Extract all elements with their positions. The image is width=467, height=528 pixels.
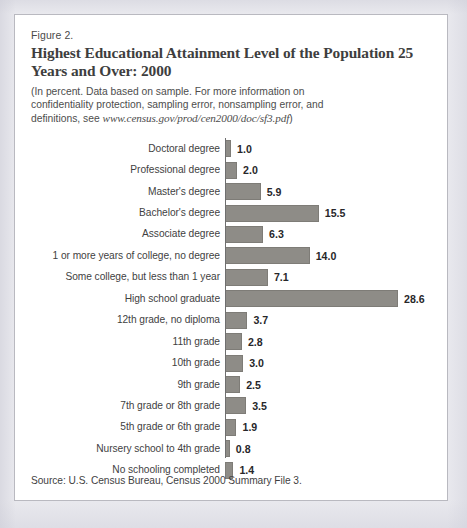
value-axis-line [225,138,226,458]
bar [225,312,247,329]
bar-track: 6.3 [225,224,433,245]
chart-row: Bachelor's degree15.5 [31,202,433,223]
bar-value-label: 3.0 [249,357,264,369]
bar-value-label: 15.5 [325,207,346,219]
chart-row: 5th grade or 6th grade1.9 [31,417,433,438]
bar [225,333,242,350]
category-label: 9th grade [31,379,225,391]
bar-value-label: 7.1 [274,271,289,283]
bar-value-label: 3.7 [253,314,268,326]
bar-value-label: 2.5 [246,379,261,391]
bar-track: 14.0 [225,245,433,266]
category-label: Doctoral degree [31,143,225,155]
bar-value-label: 1.9 [242,421,257,433]
bar-track: 1.9 [225,417,433,438]
bar-track: 3.0 [225,352,433,373]
bar-value-label: 2.0 [243,164,258,176]
category-label: Nursery school to 4th grade [31,443,225,455]
category-label: Bachelor's degree [31,207,225,219]
bar-value-label: 28.6 [404,293,425,305]
bar-chart: Doctoral degree1.0Professional degree2.0… [31,138,433,458]
chart-row: Some college, but less than 1 year7.1 [31,267,433,288]
chart-row: 1 or more years of college, no degree14.… [31,245,433,266]
chart-row: 10th grade3.0 [31,352,433,373]
bar-track: 15.5 [225,202,433,223]
screenshot-page: Figure 2. Highest Educational Attainment… [0,0,467,528]
category-label: Professional degree [31,164,225,176]
figure-note-close: ) [289,113,292,124]
chart-row: 9th grade2.5 [31,374,433,395]
bar-track: 2.5 [225,374,433,395]
bar-track: 2.8 [225,331,433,352]
chart-rows: Doctoral degree1.0Professional degree2.0… [31,138,433,481]
figure-title: Highest Educational Attainment Level of … [31,44,431,80]
bar-track: 5.9 [225,181,433,202]
chart-row: 7th grade or 8th grade3.5 [31,395,433,416]
bar [225,183,261,200]
chart-row: 11th grade2.8 [31,331,433,352]
bar-track: 7.1 [225,267,433,288]
bar [225,269,268,286]
source-note: Source: U.S. Census Bureau, Census 2000 … [31,474,302,487]
bar [225,247,310,264]
bar-track: 2.0 [225,159,433,180]
category-label: 11th grade [31,336,225,348]
bar-track: 0.8 [225,438,433,459]
chart-row: Nursery school to 4th grade0.8 [31,438,433,459]
bar [225,205,319,222]
category-label: 10th grade [31,357,225,369]
bar [225,226,263,243]
category-label: Associate degree [31,228,225,240]
bar-value-label: 3.5 [252,400,267,412]
bar [225,397,246,414]
figure-note: (In percent. Data based on sample. For m… [31,85,361,125]
bar-value-label: 5.9 [267,186,282,198]
category-label: 12th grade, no diploma [31,314,225,326]
category-label: Some college, but less than 1 year [31,271,225,283]
chart-row: Master's degree5.9 [31,181,433,202]
bar [225,162,237,179]
category-label: 1 or more years of college, no degree [31,250,225,262]
chart-row: Associate degree6.3 [31,224,433,245]
figure-panel: Figure 2. Highest Educational Attainment… [14,14,448,501]
chart-row: Professional degree2.0 [31,159,433,180]
category-label: 7th grade or 8th grade [31,400,225,412]
bar [225,419,236,436]
bar-value-label: 14.0 [316,250,337,262]
figure-number: Figure 2. [31,29,431,42]
chart-row: 12th grade, no diploma3.7 [31,310,433,331]
category-label: 5th grade or 6th grade [31,421,225,433]
bar-track: 3.7 [225,310,433,331]
bar [225,355,243,372]
bar-track: 1.0 [225,138,433,159]
figure-note-url[interactable]: www.census.gov/prod/cen2000/doc/sf3.pdf [103,112,290,124]
bar-value-label: 2.8 [248,336,263,348]
bar-track: 28.6 [225,288,433,309]
chart-row: Doctoral degree1.0 [31,138,433,159]
bar-value-label: 1.0 [237,143,252,155]
bar-value-label: 6.3 [269,228,284,240]
bar-track: 3.5 [225,395,433,416]
chart-row: High school graduate28.6 [31,288,433,309]
bar [225,376,240,393]
category-label: Master's degree [31,186,225,198]
bar-value-label: 0.8 [236,443,251,455]
bar [225,290,398,307]
category-label: High school graduate [31,293,225,305]
